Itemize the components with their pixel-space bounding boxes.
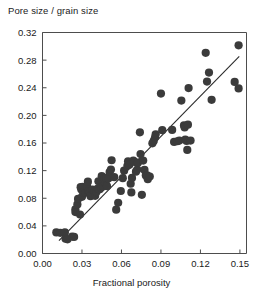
y-tick-label: 0.20 [18,110,37,121]
data-point [119,174,127,182]
data-point [208,96,216,104]
data-point [202,49,210,57]
data-point [110,173,118,181]
data-point [138,191,146,199]
x-tick-label: 0.15 [231,258,250,269]
x-tick-label: 0.09 [152,258,171,269]
y-tick-label: 0.24 [18,82,37,93]
y-tick-label: 0.16 [18,137,37,148]
data-point [158,126,166,134]
data-point [107,165,115,173]
data-point [136,128,144,136]
data-point [103,182,111,190]
x-tick-label: 0.00 [33,258,52,269]
y-tick-label: 0.28 [18,55,37,66]
data-point [186,136,194,144]
plot-canvas: 0.000.040.080.120.160.200.240.280.32 0.0… [0,0,263,294]
data-point [114,199,122,207]
data-point [205,68,213,76]
x-tick-label: 0.03 [73,258,92,269]
y-tick-label: 0.04 [18,220,37,231]
x-axis-ticks: 0.000.030.060.090.120.15 [33,250,249,269]
x-axis-label: Fractional porosity [0,277,263,288]
data-point [235,41,243,49]
data-point [117,187,125,195]
y-tick-label: 0.32 [18,27,37,38]
y-tick-label: 0.12 [18,165,37,176]
data-point [112,206,120,214]
scatter-plot-figure: Pore size / grain size 0.000.040.080.120… [0,0,263,294]
data-point [157,90,165,98]
data-point [84,178,92,186]
data-point [184,84,192,92]
data-point [183,146,191,154]
data-point [76,210,84,218]
data-point [168,126,176,134]
data-point [70,233,78,241]
plot-frame [43,33,247,254]
y-tick-label: 0.08 [18,193,37,204]
data-point [139,157,147,165]
data-point [127,188,135,196]
x-tick-label: 0.12 [191,258,210,269]
regression-line [59,56,239,240]
data-point [107,156,115,164]
data-point [177,96,185,104]
x-tick-label: 0.06 [112,258,131,269]
axis-frame [43,33,247,254]
data-point [146,172,154,180]
data-point [184,121,192,129]
data-point [235,84,243,92]
regression-line-path [59,56,239,240]
data-points [52,41,242,243]
data-point [203,77,211,85]
